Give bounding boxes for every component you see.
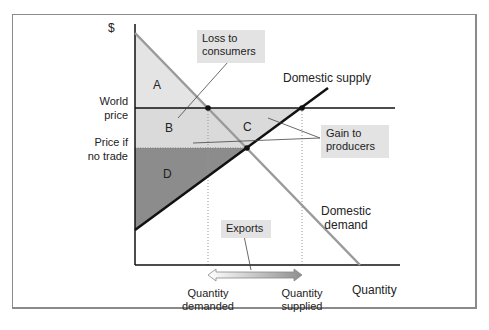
quantity-supplied-label-2: supplied	[272, 300, 332, 313]
quantity-supplied-label-1: Quantity	[272, 287, 332, 300]
region-b-label: B	[165, 121, 173, 135]
loss-callout-line-1: Loss to	[202, 32, 260, 45]
demand-curve-label-1: Domestic	[316, 205, 376, 218]
quantity-demanded-label-2: demanded	[178, 300, 238, 313]
region-c-label: C	[243, 120, 252, 134]
y-axis-label: $	[108, 22, 115, 35]
loss-to-consumers-callout: Loss to consumers	[197, 30, 265, 63]
world-price-label-2: price	[70, 109, 128, 122]
no-trade-price-label-1: Price if	[70, 136, 128, 149]
exports-callout: Exports	[221, 220, 271, 238]
supply-curve-label: Domestic supply	[283, 72, 371, 85]
x-axis-label: Quantity	[352, 284, 397, 297]
gain-callout-line-1: Gain to	[326, 127, 384, 140]
loss-callout-line-2: consumers	[202, 45, 260, 58]
exports-arrow	[208, 269, 302, 281]
world-price-label-1: World	[70, 95, 128, 108]
quantity-demanded-label-1: Quantity	[178, 287, 238, 300]
demand-curve-label-2: demand	[316, 219, 376, 232]
region-a-label: A	[153, 78, 161, 92]
gain-callout-line-2: producers	[326, 140, 384, 153]
gain-to-producers-callout: Gain to producers	[321, 125, 389, 158]
no-trade-price-label-2: no trade	[70, 150, 128, 163]
region-d-label: D	[163, 167, 172, 181]
